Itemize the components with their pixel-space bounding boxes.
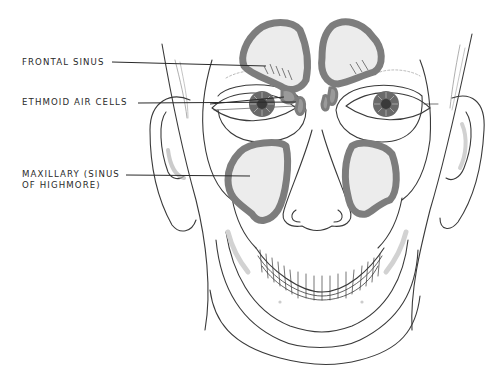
label-maxillary-line1: MAXILLARY (SINUS bbox=[22, 169, 120, 180]
nasal-cavity bbox=[283, 130, 351, 231]
right-head-outline bbox=[412, 34, 472, 330]
frontal-sinus-left bbox=[243, 23, 308, 90]
frontal-sinus-right bbox=[322, 22, 382, 84]
label-maxillary-line2: OF HIGHMORE) bbox=[22, 180, 101, 191]
maxillary-sinus-left bbox=[228, 143, 288, 221]
teeth-upper bbox=[256, 248, 384, 292]
label-ethmoid-air-cells: ETHMOID AIR CELLS bbox=[22, 97, 127, 108]
maxillary-sinus-right bbox=[345, 143, 396, 214]
teeth bbox=[260, 250, 380, 300]
sinus-diagram: FRONTAL SINUS ETHMOID AIR CELLS MAXILLAR… bbox=[0, 0, 497, 372]
ethmoid-cells bbox=[282, 88, 337, 115]
label-frontal-sinus: FRONTAL SINUS bbox=[22, 57, 105, 68]
